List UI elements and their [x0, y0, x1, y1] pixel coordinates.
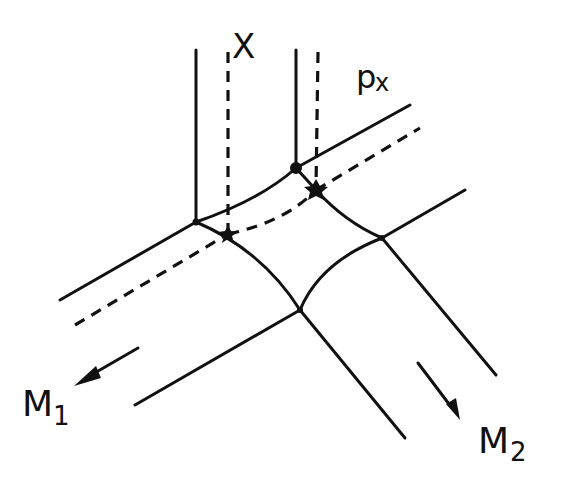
label-m1: M	[22, 383, 53, 424]
m1-upper-line	[60, 222, 196, 300]
m2-lower-line	[300, 310, 405, 438]
label-x: X	[232, 26, 255, 66]
label-p-subscript: x	[375, 69, 389, 97]
star-marker-icon	[218, 225, 238, 243]
label-m2-subscript: 2	[510, 437, 527, 467]
vertex-dot	[297, 307, 303, 313]
vertex-dot	[193, 219, 200, 226]
vertex-dot	[290, 162, 302, 174]
inner-curve-right	[316, 190, 382, 238]
m1-lower-line	[135, 310, 300, 405]
vertex-dot	[379, 235, 385, 241]
px-dashed-curve	[228, 190, 316, 234]
m2-upper-line	[382, 238, 496, 375]
px-dashed-right	[316, 128, 420, 190]
inner-curve-left	[196, 222, 300, 310]
inner-curve-top	[196, 168, 296, 222]
inner-curve-bottom	[300, 238, 382, 310]
px-upper-line	[296, 105, 410, 168]
px-lower-line	[382, 190, 465, 238]
label-p: p	[356, 58, 376, 96]
m2-arrow-shaft	[418, 363, 452, 408]
m1-arrow-head-icon	[74, 366, 101, 386]
label-m1-subscript: 1	[53, 401, 70, 431]
label-m2: M	[478, 420, 509, 461]
junction-diagram: X p x M 1 M 2	[0, 0, 568, 479]
x-branch-right-dashed	[316, 52, 318, 188]
